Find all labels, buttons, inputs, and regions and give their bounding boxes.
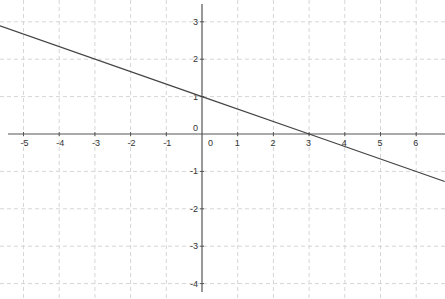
tick-labels: -5-4-3-2-10123456-4-3-2-10123 bbox=[21, 17, 419, 289]
x-tick-label: 6 bbox=[413, 138, 418, 148]
x-tick-label: 3 bbox=[306, 138, 311, 148]
x-tick-label: -3 bbox=[92, 138, 100, 148]
x-tick-label: 1 bbox=[235, 138, 240, 148]
x-tick-label: -1 bbox=[163, 138, 171, 148]
axes bbox=[8, 4, 445, 292]
y-tick-label: 2 bbox=[193, 54, 198, 64]
x-tick-label: -4 bbox=[56, 138, 64, 148]
x-tick-label: 0 bbox=[208, 138, 213, 148]
y-tick-label: 0 bbox=[193, 123, 198, 133]
line-y-equals-neg-third-x-plus-1 bbox=[0, 26, 445, 182]
coordinate-plane: -5-4-3-2-10123456-4-3-2-10123 bbox=[0, 0, 445, 299]
x-tick-label: 2 bbox=[270, 138, 275, 148]
line-series bbox=[0, 26, 445, 182]
grid-lines bbox=[0, 0, 445, 299]
x-tick-label: 5 bbox=[378, 138, 383, 148]
y-tick-label: 3 bbox=[193, 17, 198, 27]
y-tick-label: -3 bbox=[190, 241, 198, 251]
x-tick-label: -5 bbox=[21, 138, 29, 148]
y-tick-label: -4 bbox=[190, 279, 198, 289]
y-tick-label: -1 bbox=[190, 166, 198, 176]
y-tick-label: -2 bbox=[190, 204, 198, 214]
x-tick-label: -2 bbox=[128, 138, 136, 148]
